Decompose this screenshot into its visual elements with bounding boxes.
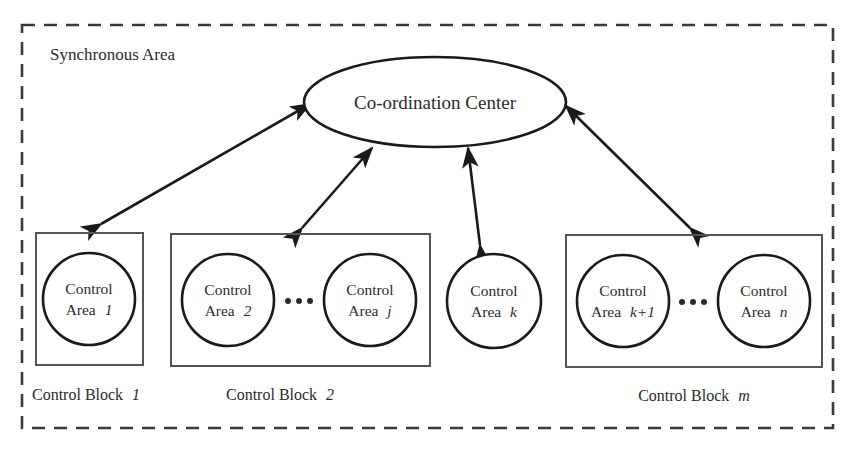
control-area-k-line2: Area k xyxy=(471,303,518,320)
connection-center-area-k xyxy=(468,148,480,245)
connection-center-block-1 xyxy=(101,104,310,224)
control-block-m-ellipsis xyxy=(679,299,707,305)
control-area-1-line2-prefix: Area xyxy=(66,301,96,318)
control-area-2[interactable]: Control Area 2 xyxy=(182,254,274,346)
control-area-2-index: 2 xyxy=(244,302,252,319)
control-area-n-index: n xyxy=(780,303,788,320)
control-area-k-line1: Control xyxy=(470,282,517,299)
control-area-2-line1: Control xyxy=(204,281,251,298)
control-block-1-label-prefix: Control Block xyxy=(32,386,123,403)
control-block-2[interactable]: Control Area 2 Control Area j xyxy=(171,234,430,403)
control-area-k-circle xyxy=(447,254,541,348)
diagram-svg: Synchronous Area Co-ordination Center xyxy=(0,0,851,450)
control-area-j-circle xyxy=(324,254,416,346)
control-area-k-plus-1-line2-prefix: Area xyxy=(591,303,621,320)
control-area-2-line2-prefix: Area xyxy=(205,302,235,319)
control-area-n-circle xyxy=(718,255,810,347)
synchronous-area-label: Synchronous Area xyxy=(50,45,176,64)
control-area-1[interactable]: Control Area 1 xyxy=(43,253,135,345)
diagram-canvas: Synchronous Area Co-ordination Center xyxy=(0,0,851,450)
control-area-k-plus-1[interactable]: Control Area k+1 xyxy=(577,255,669,347)
control-area-2-circle xyxy=(182,254,274,346)
control-block-m-index: m xyxy=(738,387,750,404)
control-block-m[interactable]: Control Area k+1 Control Area n xyxy=(566,235,822,404)
control-block-2-ellipsis xyxy=(285,298,313,304)
coordination-center-node[interactable]: Co-ordination Center xyxy=(304,57,566,147)
control-area-1-line1: Control xyxy=(65,280,112,297)
control-block-m-label: Control Block m xyxy=(638,387,750,404)
control-area-n[interactable]: Control Area n xyxy=(718,255,810,347)
control-area-1-index: 1 xyxy=(105,301,113,318)
coordination-center-label: Co-ordination Center xyxy=(354,92,517,113)
control-area-k[interactable]: Control Area k xyxy=(447,254,541,348)
control-area-k-plus-1-index: k+1 xyxy=(630,303,655,320)
control-area-k-plus-1-circle xyxy=(577,255,669,347)
control-area-n-line2-prefix: Area xyxy=(741,303,771,320)
control-block-2-label: Control Block 2 xyxy=(226,386,334,403)
connection-center-block-2 xyxy=(302,148,372,228)
control-area-1-line2: Area 1 xyxy=(66,301,113,318)
control-area-j-line2-prefix: Area xyxy=(348,302,378,319)
control-block-2-index: 2 xyxy=(326,386,334,403)
control-area-k-plus-1-line2: Area k+1 xyxy=(591,303,655,320)
control-area-j-line1: Control xyxy=(346,281,393,298)
control-block-1[interactable]: Control Area 1 Control Block 1 xyxy=(32,233,143,403)
control-block-1-label: Control Block 1 xyxy=(32,386,140,403)
control-area-1-circle xyxy=(43,253,135,345)
control-area-n-line2: Area n xyxy=(741,303,788,320)
connection-center-block-m xyxy=(566,106,690,228)
control-area-k-plus-1-line1: Control xyxy=(599,282,646,299)
control-area-k-line2-prefix: Area xyxy=(471,303,501,320)
control-block-2-label-prefix: Control Block xyxy=(226,386,317,403)
control-area-2-line2: Area 2 xyxy=(205,302,252,319)
control-block-m-label-prefix: Control Block xyxy=(638,387,729,404)
control-area-j[interactable]: Control Area j xyxy=(324,254,416,346)
control-block-1-index: 1 xyxy=(132,386,140,403)
control-area-n-line1: Control xyxy=(740,282,787,299)
control-area-k-index: k xyxy=(510,303,518,320)
